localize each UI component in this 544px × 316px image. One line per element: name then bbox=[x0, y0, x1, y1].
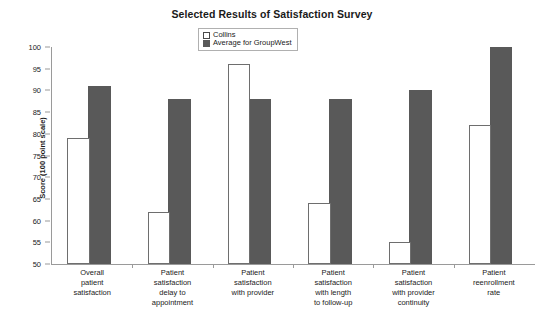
bar-group bbox=[213, 47, 293, 264]
legend-label-groupwest: Average for GroupWest bbox=[213, 39, 292, 47]
x-axis-category-label-line: with provider bbox=[374, 288, 452, 298]
x-axis-category-label-line: rate bbox=[455, 288, 533, 298]
x-axis-category-label: Patientsatisfactionwith lengthto follow-… bbox=[293, 268, 373, 308]
y-axis-tick-mark bbox=[45, 264, 50, 265]
y-axis-tick-labels: 10095908580757065605550 bbox=[0, 47, 47, 264]
x-axis-category-label-line: to follow-up bbox=[294, 298, 372, 308]
x-axis-tick-mark bbox=[213, 264, 214, 268]
x-axis-category-label: Patientsatisfactionwith provider bbox=[213, 268, 293, 308]
y-axis-tick-mark bbox=[45, 90, 50, 91]
x-axis-category-label-line: continuity bbox=[374, 298, 452, 308]
chart-legend: Collins Average for GroupWest bbox=[198, 28, 298, 51]
x-axis-category-label-line: with provider bbox=[214, 288, 292, 298]
x-axis-category-label-line: Patient bbox=[133, 268, 211, 278]
y-axis-tick-mark bbox=[45, 177, 50, 178]
bar-groups bbox=[52, 47, 534, 264]
x-axis-category-label-line: delay to bbox=[133, 288, 211, 298]
x-axis-category-label: Overallpatientsatisfaction bbox=[52, 268, 132, 308]
y-axis-tick-mark bbox=[45, 155, 50, 156]
bar-collins bbox=[308, 203, 330, 264]
legend-entry-groupwest: Average for GroupWest bbox=[203, 39, 292, 47]
bar-collins bbox=[469, 125, 491, 264]
bar-groupwest bbox=[168, 99, 190, 264]
y-axis-tick-mark bbox=[45, 220, 50, 221]
x-axis-category-label-line: reenrollment bbox=[455, 278, 533, 288]
bar-collins bbox=[148, 212, 170, 264]
x-axis-category-label-line: Patient bbox=[294, 268, 372, 278]
x-axis-category-label-line: with length bbox=[294, 288, 372, 298]
x-axis-tick-mark bbox=[454, 264, 455, 268]
bar-group bbox=[293, 47, 373, 264]
x-axis-category-labels: OverallpatientsatisfactionPatientsatisfa… bbox=[52, 268, 534, 308]
legend-swatch-groupwest bbox=[203, 40, 210, 47]
bar-group bbox=[132, 47, 212, 264]
bar-groupwest bbox=[409, 90, 431, 264]
y-axis-tick-label: 80 bbox=[33, 129, 41, 138]
y-axis-tick-label: 100 bbox=[28, 43, 41, 52]
y-axis-tick-label: 95 bbox=[33, 64, 41, 73]
x-axis-category-label-line: satisfaction bbox=[294, 278, 372, 288]
bar-groupwest bbox=[249, 99, 271, 264]
bar-group bbox=[52, 47, 132, 264]
x-axis-category-label-line: Overall bbox=[53, 268, 131, 278]
chart-title: Selected Results of Satisfaction Survey bbox=[0, 8, 544, 20]
y-axis-tick-label: 50 bbox=[33, 260, 41, 269]
x-axis-category-label-line: Patient bbox=[374, 268, 452, 278]
x-axis-tick-mark bbox=[373, 264, 374, 268]
y-axis-tick-mark bbox=[45, 198, 50, 199]
bar-collins bbox=[389, 242, 411, 264]
y-axis-tick-label: 85 bbox=[33, 108, 41, 117]
x-axis-category-label-line: satisfaction bbox=[214, 278, 292, 288]
y-axis-tick-label: 90 bbox=[33, 86, 41, 95]
bar-groupwest bbox=[490, 47, 512, 264]
bar-group bbox=[373, 47, 453, 264]
y-axis-tick-mark bbox=[45, 47, 50, 48]
x-axis-category-label-line: satisfaction bbox=[133, 278, 211, 288]
bar-group bbox=[454, 47, 534, 264]
y-axis-tick-mark bbox=[45, 68, 50, 69]
bar-collins bbox=[228, 64, 250, 264]
x-axis-category-label-line: satisfaction bbox=[374, 278, 452, 288]
x-axis-tick-mark bbox=[293, 264, 294, 268]
x-axis-category-label: Patientreenrollmentrate bbox=[454, 268, 534, 308]
bar-collins bbox=[67, 138, 89, 264]
x-axis-category-label-line: satisfaction bbox=[53, 288, 131, 298]
x-axis-category-label-line: appointment bbox=[133, 298, 211, 308]
x-axis-tick-mark bbox=[132, 264, 133, 268]
x-axis-category-label-line: patient bbox=[53, 278, 131, 288]
y-axis-tick-mark bbox=[45, 112, 50, 113]
y-axis-tick-label: 60 bbox=[33, 216, 41, 225]
y-axis-tick-mark bbox=[45, 133, 50, 134]
bar-groupwest bbox=[329, 99, 351, 264]
x-axis-category-label: Patientsatisfactionwith providercontinui… bbox=[373, 268, 453, 308]
satisfaction-survey-bar-chart: Selected Results of Satisfaction Survey … bbox=[0, 0, 544, 316]
x-axis-category-label-line: Patient bbox=[455, 268, 533, 278]
legend-swatch-collins bbox=[203, 32, 210, 39]
y-axis-tick-label: 75 bbox=[33, 151, 41, 160]
y-axis-tick-label: 65 bbox=[33, 194, 41, 203]
y-axis-tick-label: 55 bbox=[33, 238, 41, 247]
x-axis-category-label: Patientsatisfactiondelay toappointment bbox=[132, 268, 212, 308]
x-axis-category-label-line: Patient bbox=[214, 268, 292, 278]
y-axis-tick-mark bbox=[45, 242, 50, 243]
y-axis-tick-label: 70 bbox=[33, 173, 41, 182]
bar-groupwest bbox=[88, 86, 110, 264]
